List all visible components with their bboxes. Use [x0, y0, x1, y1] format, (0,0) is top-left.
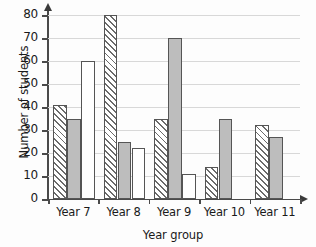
x-tick-mark	[48, 199, 50, 204]
bar	[154, 119, 168, 200]
y-tick-label: 10	[0, 168, 38, 182]
y-tick-label: 60	[0, 53, 38, 67]
y-tick-label: 20	[0, 145, 38, 159]
bar	[81, 61, 95, 199]
y-tick-label: 40	[0, 99, 38, 113]
x-tick-mark	[300, 199, 302, 204]
gridline	[48, 15, 300, 16]
bar	[104, 15, 118, 199]
y-tick-label: 50	[0, 76, 38, 90]
bar	[205, 167, 219, 199]
bar	[118, 142, 132, 200]
bar-chart: Number of students Year group 8070605040…	[0, 0, 316, 247]
bar	[269, 137, 283, 199]
x-tick-mark	[98, 199, 100, 204]
bar	[182, 174, 196, 199]
y-tick-label: 70	[0, 30, 38, 44]
bar	[53, 105, 67, 199]
bar	[255, 125, 269, 199]
x-tick-mark	[250, 199, 252, 204]
bar	[67, 119, 81, 200]
axis-baseline	[48, 199, 300, 200]
x-tick-label: Year 11	[242, 205, 308, 219]
bar	[219, 119, 233, 200]
x-axis-title: Year group	[40, 228, 306, 242]
y-tick-label: 0	[0, 191, 38, 205]
bar	[132, 148, 146, 199]
plot-area	[48, 15, 300, 199]
x-tick-mark	[199, 199, 201, 204]
y-tick-label: 80	[0, 7, 38, 21]
y-tick-label: 30	[0, 122, 38, 136]
x-tick-mark	[149, 199, 151, 204]
bar	[168, 38, 182, 199]
y-axis-arrow-icon	[44, 3, 52, 11]
